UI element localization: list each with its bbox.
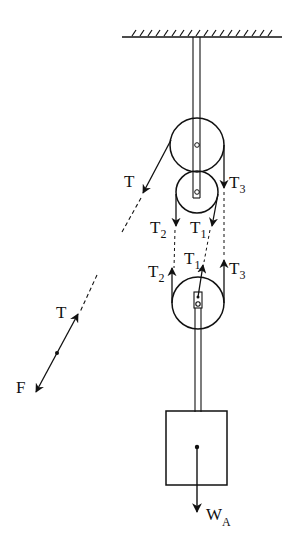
tension-t1-arrow-down [212, 194, 218, 226]
label-t-upper: T [124, 172, 135, 191]
small-pulley [176, 171, 218, 213]
label-t-free: T [56, 303, 67, 322]
top-pulley [170, 118, 224, 172]
label-t3-lower: T3 [229, 259, 245, 282]
label-wa: WA [206, 505, 231, 529]
label-t3-upper: T3 [229, 173, 245, 196]
lower-rod [194, 292, 202, 412]
tension-t-arrow-upper [143, 140, 171, 193]
label-t2-lower: T2 [148, 262, 164, 285]
rope-point [55, 351, 59, 355]
label-t1-mid: T1 [190, 218, 206, 241]
label-f: F [16, 378, 25, 397]
rope-dashed-diagonal-upper [122, 198, 141, 232]
rope-dashed-diagonal-lower [80, 275, 97, 312]
ceiling-support [122, 30, 282, 37]
label-t2-mid: T2 [150, 218, 166, 241]
pulley-diagram: T T3 T2 T1 T1 T2 T3 T F WA [0, 0, 285, 543]
rope-dashed-t2 [174, 230, 175, 268]
label-t1-lower: T1 [184, 249, 200, 272]
force-f-arrow [36, 353, 57, 392]
